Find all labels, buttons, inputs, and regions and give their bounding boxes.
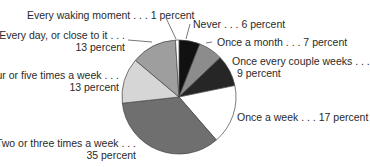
label-every-day: Every day, or close to it . . . 13 perce… [0, 29, 125, 53]
label-once-a-month: Once a month . . . 7 percent [217, 36, 347, 48]
label-never: Never . . . 6 percent [193, 18, 285, 30]
pie-slices [122, 40, 236, 154]
label-once-a-week: Once a week . . . 17 percent [237, 111, 368, 123]
label-once-every-couple-weeks: Once every couple weeks . . . 9 percent [232, 55, 370, 79]
label-four-or-five-times: Four or five times a week . . . 13 perce… [0, 69, 119, 93]
label-two-or-three-times: Two or three times a week . . . 35 perce… [0, 137, 136, 161]
label-every-waking-moment: Every waking moment . . . 1 percent [27, 9, 195, 21]
